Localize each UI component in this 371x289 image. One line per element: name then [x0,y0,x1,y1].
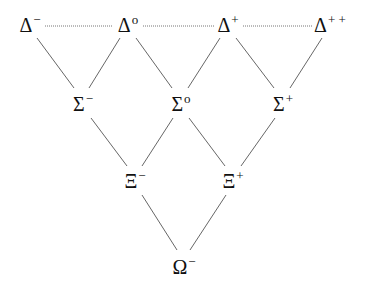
particle-charge: − [138,168,145,183]
particle-charge: + [236,168,243,183]
particle-sigma-plus: Σ+ [273,92,293,114]
edge [188,38,220,88]
particle-delta-plus: Δ+ [217,13,238,35]
particle-sigma-zero: Σo [171,92,190,114]
edge [190,195,226,250]
edge [91,118,127,166]
particle-sigma-minus: Σ− [73,92,93,114]
particle-symbol: Σ [171,93,183,115]
edge [236,38,274,88]
particle-symbol: Σ [273,93,285,115]
particle-omega-minus: Ω− [172,255,195,277]
particle-xi-plus: Ξ+ [222,169,243,191]
particle-charge: − [86,91,93,106]
edge [241,118,275,166]
particle-symbol: Ω [172,256,187,278]
particle-charge: + [286,91,293,106]
particle-charge: − [188,254,195,269]
particle-delta-zero: Δo [118,13,138,35]
decuplet-diagram: Δ−ΔoΔ+Δ+ +Σ−ΣoΣ+Ξ−Ξ+Ω− [0,0,371,289]
edge [89,38,120,88]
particle-symbol: Δ [314,14,327,36]
edge [290,38,322,88]
edge [37,38,74,88]
particle-delta-minus: Δ− [19,13,40,35]
particle-charge: o [132,12,139,27]
particle-symbol: Σ [73,93,85,115]
edge [189,118,225,166]
particle-symbol: Δ [217,14,230,36]
particle-symbol: Ξ [222,170,235,192]
edge [136,38,172,88]
particle-charge: + [231,12,238,27]
particle-symbol: Δ [118,14,131,36]
particle-delta-plusplus: Δ+ + [314,13,346,35]
particle-symbol: Δ [19,14,32,36]
particle-charge: + + [328,12,346,27]
diagram-edges [0,0,371,289]
edge [142,195,177,250]
particle-symbol: Ξ [124,170,137,192]
particle-charge: o [184,91,191,106]
edge [142,118,173,166]
particle-charge: − [33,12,40,27]
particle-xi-minus: Ξ− [124,169,145,191]
